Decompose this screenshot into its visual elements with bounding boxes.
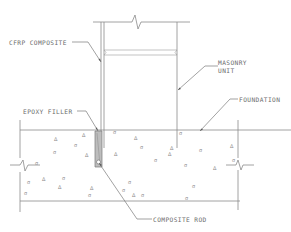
svg-text:σ: σ — [179, 130, 183, 136]
svg-text:Δ: Δ — [82, 132, 86, 138]
detail-drawing: Δ σ σ Δ σ σ Δ σ Δ σ Δ Δ Δ σ σ σ Δ Δ σ Δ … — [0, 0, 291, 232]
svg-text:σ: σ — [154, 157, 158, 163]
svg-text:σ: σ — [140, 144, 144, 150]
svg-text:σ: σ — [199, 147, 203, 153]
svg-text:σ: σ — [27, 179, 31, 185]
masonry-wall — [93, 15, 190, 148]
break-line-top — [93, 15, 190, 29]
svg-text:Δ: Δ — [132, 192, 136, 198]
label-foundation: FOUNDATION — [239, 96, 280, 103]
foundation-slab: Δ σ σ Δ σ σ Δ σ Δ σ Δ Δ Δ σ σ σ Δ Δ σ Δ … — [10, 120, 291, 212]
svg-text:Δ: Δ — [230, 143, 234, 149]
label-composite-rod: COMPOSITE ROD — [153, 216, 207, 223]
svg-text:Δ: Δ — [168, 151, 172, 157]
svg-text:σ: σ — [141, 192, 145, 198]
svg-text:Δ: Δ — [85, 152, 89, 158]
svg-text:σ: σ — [232, 157, 236, 163]
svg-text:σ: σ — [53, 149, 57, 155]
svg-text:Δ: Δ — [134, 135, 138, 141]
svg-text:σ: σ — [184, 162, 188, 168]
epoxy-filled-groove — [95, 131, 102, 167]
svg-text:Δ: Δ — [213, 165, 217, 171]
svg-text:σ: σ — [185, 195, 189, 201]
svg-text:σ: σ — [88, 192, 92, 198]
label-epoxy-filler: EPOXY FILLER — [23, 108, 73, 115]
svg-text:σ: σ — [74, 142, 78, 148]
svg-text:Δ: Δ — [58, 184, 62, 190]
svg-text:Δ: Δ — [54, 136, 58, 142]
label-masonry-unit-line1: MASONRY — [218, 59, 247, 66]
svg-text:Δ: Δ — [90, 185, 94, 191]
composite-rod — [97, 160, 101, 164]
svg-text:σ: σ — [62, 175, 66, 181]
svg-text:σ: σ — [128, 179, 132, 185]
break-line-right — [226, 160, 254, 170]
svg-text:σ: σ — [122, 187, 126, 193]
svg-text:Δ: Δ — [114, 151, 118, 157]
aggregate-symbols: Δ σ σ Δ σ σ Δ σ Δ σ Δ Δ Δ σ σ σ Δ Δ σ Δ … — [24, 129, 236, 201]
svg-text:Δ: Δ — [42, 176, 46, 182]
svg-text:σ: σ — [192, 183, 196, 189]
label-cfrp-composite: CFRP COMPOSITE — [9, 39, 67, 46]
label-masonry-unit-line2: UNIT — [218, 67, 235, 74]
svg-text:σ: σ — [24, 190, 28, 196]
leader-lines — [72, 42, 238, 219]
